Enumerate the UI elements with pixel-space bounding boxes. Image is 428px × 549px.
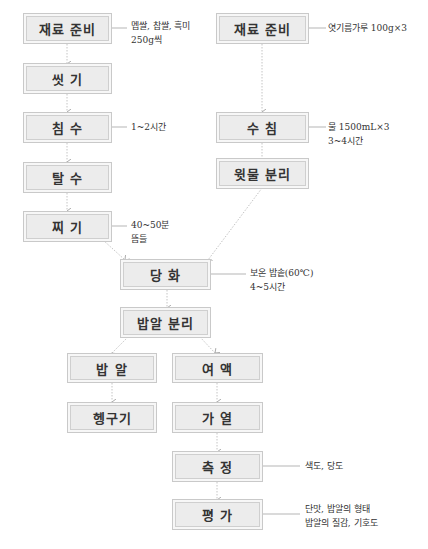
step-label: 탈 수	[52, 168, 84, 187]
step-label: 밥알 분리	[137, 313, 195, 332]
step-heating: 가 열	[172, 402, 263, 433]
step-filtrate: 여 액	[172, 353, 263, 383]
step-label: 당 화	[150, 265, 182, 284]
step-saccharification: 당 화	[120, 259, 211, 290]
step-label: 헹구기	[93, 408, 132, 427]
step-label: 재료 준비	[39, 19, 97, 38]
step-water-soaking: 수 침	[216, 112, 309, 143]
step-draining: 탈 수	[23, 162, 112, 193]
step-washing: 씻 기	[23, 63, 112, 94]
step-rice-grain-separation: 밥알 분리	[120, 307, 211, 338]
step-label: 윗물 분리	[234, 164, 292, 183]
step-material-prep-malt: 재료 준비	[216, 13, 309, 44]
step-steaming: 찌 기	[23, 211, 112, 242]
step-label: 밥 알	[96, 359, 128, 378]
step-rice-grains: 밥 알	[67, 353, 157, 383]
step-label: 찌 기	[52, 217, 84, 236]
step-soaking: 침 수	[23, 112, 112, 143]
step-label: 여 액	[202, 359, 234, 378]
step-label: 평 가	[202, 505, 234, 524]
step-evaluation: 평 가	[172, 499, 263, 530]
step-label: 침 수	[52, 118, 84, 137]
note-measurement: 색도, 당도	[305, 459, 343, 473]
step-label: 측 정	[202, 457, 234, 476]
step-label: 씻 기	[52, 69, 84, 88]
step-label: 재료 준비	[234, 19, 292, 38]
step-material-prep-rice: 재료 준비	[23, 13, 112, 44]
step-supernatant-separation: 윗물 분리	[216, 158, 309, 189]
step-measurement: 측 정	[172, 451, 263, 482]
note-soaking: 1~2시간	[131, 120, 166, 134]
step-rinsing: 헹구기	[67, 402, 157, 433]
step-label: 가 열	[202, 408, 234, 427]
note-water-soaking: 물 1500mL×3 3~4시간	[328, 120, 390, 148]
note-evaluation: 단맛, 밥알의 형태 밥알의 질감, 기호도	[305, 502, 378, 530]
note-saccharification: 보온 밥솥(60℃) 4~5시간	[250, 266, 313, 294]
note-material-prep-rice: 멥쌀, 찹쌀, 흑미 250g씩	[131, 19, 190, 47]
note-steaming: 40~50분 뜸들	[131, 218, 169, 246]
step-label: 수 침	[247, 118, 279, 137]
note-material-prep-malt: 엿기름가루 100g×3	[328, 21, 407, 35]
